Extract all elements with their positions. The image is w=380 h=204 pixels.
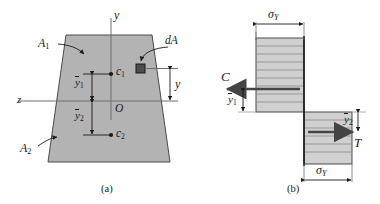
caption-a: (a) [101,184,113,195]
element-dA-square [136,64,145,73]
compression-resultant-label: C [221,70,230,83]
tension-resultant-label: T [354,136,361,149]
cross-section-trapezoid [48,35,170,162]
sigma-yield-top-label: σY [268,8,278,22]
sigma-yield-bottom-label: σY [316,164,326,178]
area-A1-label: A1 [38,37,49,51]
figure-container: y z O A1 A2 c1 c2 dA y1 y2 y (a) σY σY C… [0,0,380,204]
arm-ybar2-label: y2 [344,114,353,126]
origin-label: O [115,103,123,115]
z-axis-label: z [17,94,21,105]
y-distance-label: y [175,78,180,90]
centroid-c1-label: c1 [116,66,125,79]
centroid-c2-label: c2 [116,128,125,141]
arm-ybar1-label: y1 [228,94,237,106]
ybar2-label: y2 [75,110,84,122]
compression-stress-block [256,38,304,112]
area-A2-label: A2 [20,142,31,156]
y-axis-label: y [114,9,119,21]
caption-b: (b) [287,184,299,195]
ybar1-label: y1 [75,77,84,89]
element-dA-label: dA [165,35,178,47]
